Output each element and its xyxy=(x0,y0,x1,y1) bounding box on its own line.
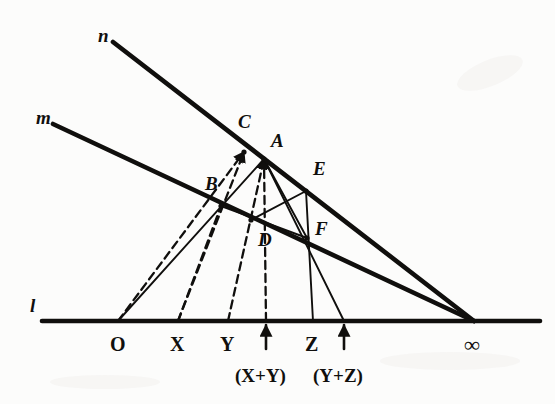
segment-O-to-D-to-A xyxy=(118,159,264,321)
segment-D-to-E xyxy=(251,191,306,220)
axis-label-Y+Z: (Y+Z) xyxy=(313,366,363,385)
point-marker-F xyxy=(304,235,309,240)
main-lines-layer xyxy=(42,42,540,321)
axis-label-X: X xyxy=(170,334,184,354)
point-label-B: B xyxy=(205,174,218,193)
axis-label-infinity: ∞ xyxy=(464,334,480,356)
point-marker-D xyxy=(248,217,253,222)
axis-label-Y: Y xyxy=(220,334,234,354)
point-label-F: F xyxy=(315,219,328,238)
geometry-figure: nmlABCDEFOXY(X+Y)Z(Y+Z)∞ xyxy=(0,0,555,404)
line-label-l: l xyxy=(30,296,35,315)
point-label-C: C xyxy=(238,112,251,131)
segment-X-to-B xyxy=(178,206,221,321)
point-label-A: A xyxy=(271,131,284,150)
line-label-n: n xyxy=(98,26,109,45)
line-label-m: m xyxy=(36,108,51,127)
axis-label-X+Y: (X+Y) xyxy=(235,366,286,385)
segment-O-to-C xyxy=(118,152,244,321)
point-marker-A xyxy=(261,156,266,161)
construction-lines-layer xyxy=(118,152,344,321)
point-marker-C xyxy=(241,149,246,154)
axis-label-O: O xyxy=(110,334,126,354)
line-m xyxy=(53,124,474,321)
line-n xyxy=(113,42,474,321)
point-marker-E xyxy=(303,188,308,193)
point-marker-B xyxy=(218,203,223,208)
point-label-D: D xyxy=(258,230,272,249)
point-label-E: E xyxy=(313,159,326,178)
axis-label-Z: Z xyxy=(305,334,318,354)
